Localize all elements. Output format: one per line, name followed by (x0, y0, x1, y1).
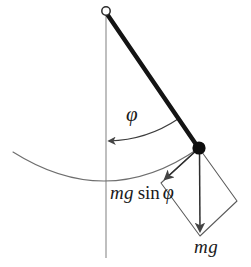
tangential-force-sin-text: sin (138, 182, 160, 203)
tangential-force-mg-text: mg (110, 182, 134, 203)
angle-phi-label: φ (126, 104, 138, 125)
weight-label: mg (194, 237, 218, 256)
weight-force-vector (200, 150, 201, 231)
pendulum-figure: φ mgsinφ mg (0, 0, 251, 267)
tangential-force-label: mgsinφ (110, 182, 174, 202)
pendulum-diagram-canvas (0, 0, 251, 267)
pivot-point (102, 7, 110, 15)
tangential-force-vector (165, 149, 198, 179)
tangential-force-phi-text: φ (163, 181, 174, 203)
angle-arc (109, 119, 178, 141)
pendulum-bob (192, 141, 205, 154)
pendulum-rod (107, 14, 198, 147)
